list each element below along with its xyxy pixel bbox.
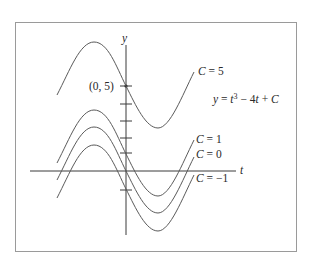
label-c-1: C = 1 — [196, 133, 222, 145]
label-c-0: C = 0 — [196, 148, 222, 160]
y-axis-label: y — [121, 32, 128, 45]
label-c-5: C = 5 — [198, 65, 224, 77]
figure-frame — [16, 23, 297, 252]
solution-curves-figure: y t (0, 5) C = 5 C = 1 C = 0 C = −1 y = … — [0, 0, 311, 257]
t-axis-label: t — [240, 164, 244, 176]
equation-label: y = t3 − 4t + C — [212, 92, 279, 106]
label-c-neg1: C = −1 — [196, 172, 228, 184]
point-label: (0, 5) — [89, 80, 114, 93]
